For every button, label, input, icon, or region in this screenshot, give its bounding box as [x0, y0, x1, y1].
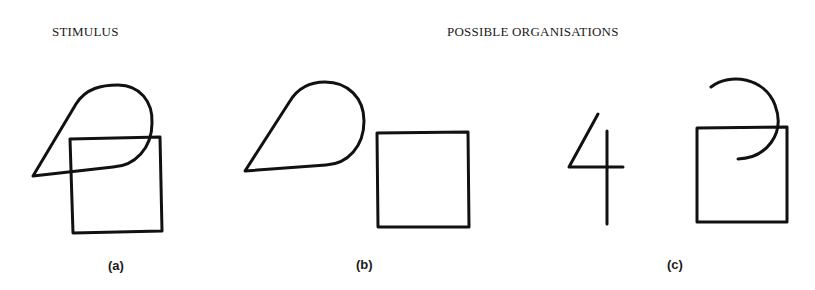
panel-c-figure: [569, 79, 787, 224]
arc-shape: [711, 79, 778, 159]
panel-b-figure: [245, 82, 469, 227]
gestalt-figures-diagram: [0, 0, 815, 290]
teardrop-shape-a: [33, 85, 152, 176]
square-shape-b: [377, 132, 469, 227]
square-shape-a: [70, 137, 162, 233]
teardrop-shape-b: [245, 82, 364, 171]
panel-label-c: (c): [667, 257, 683, 272]
four-shape: [569, 114, 623, 224]
panel-label-b: (b): [356, 257, 373, 272]
panel-label-a: (a): [108, 258, 124, 273]
panel-a-figure: [33, 85, 162, 233]
